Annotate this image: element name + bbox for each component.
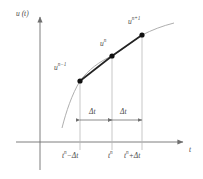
point-label-center-sup: n bbox=[104, 37, 107, 43]
tick-label-t-n-sup: n bbox=[110, 149, 113, 155]
tick-label-t-plus-dt-suffix: +Δt bbox=[129, 151, 141, 160]
point-label-prev-sup: n−1 bbox=[58, 61, 67, 67]
tick-label-t-n: tn bbox=[108, 150, 113, 159]
curve-u-of-t bbox=[62, 23, 174, 128]
interval-label-right: Δt bbox=[120, 108, 127, 116]
data-point-next bbox=[139, 32, 144, 37]
tick-label-t-minus-dt: tn−Δt bbox=[62, 150, 78, 159]
point-label-next: un+1 bbox=[128, 16, 140, 25]
tick-label-t-plus-dt: tn+Δt bbox=[124, 150, 140, 159]
point-label-center: un bbox=[100, 38, 106, 47]
y-axis-label: u (t) bbox=[16, 10, 29, 18]
point-label-next-sup: n+1 bbox=[132, 15, 141, 21]
tick-label-t-minus-dt-suffix: −Δt bbox=[67, 151, 79, 160]
diagram-svg bbox=[0, 0, 203, 179]
data-point-prev bbox=[77, 78, 82, 83]
data-point-center bbox=[109, 53, 114, 58]
figure-canvas: u (t) t un−1 un un+1 Δt Δt tn−Δt tn tn+Δ… bbox=[0, 0, 203, 179]
interval-label-left: Δt bbox=[89, 108, 96, 116]
x-axis-label: t bbox=[189, 146, 191, 154]
point-label-prev: un−1 bbox=[54, 62, 66, 71]
